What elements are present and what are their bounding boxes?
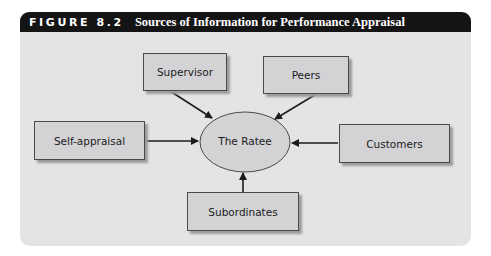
ratee-label: The Ratee [200, 135, 290, 147]
source-box-supervisor: Supervisor [143, 53, 227, 91]
source-label: Customers [366, 138, 422, 150]
source-box-subordinates: Subordinates [187, 192, 299, 231]
arrow-supervisor [170, 91, 212, 118]
source-label: Peers [292, 69, 321, 81]
source-label: Subordinates [208, 206, 277, 218]
arrow-peers [275, 93, 318, 119]
source-box-customers: Customers [339, 124, 450, 163]
source-label: Supervisor [157, 66, 213, 78]
source-label: Self-appraisal [54, 135, 125, 147]
source-box-peers: Peers [263, 56, 349, 94]
source-box-self-appraisal: Self-appraisal [34, 121, 145, 160]
